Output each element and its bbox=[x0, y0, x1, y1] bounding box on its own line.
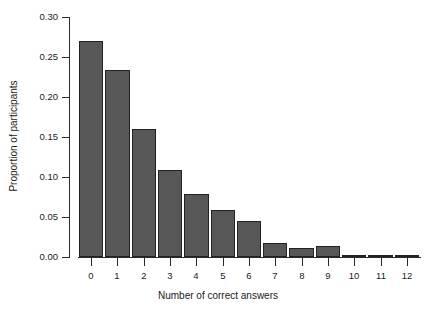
bar bbox=[211, 210, 235, 257]
x-tick bbox=[328, 258, 329, 266]
x-tick bbox=[170, 258, 171, 266]
x-tick-label: 3 bbox=[158, 270, 182, 281]
y-tick bbox=[62, 97, 70, 98]
x-tick-label: 6 bbox=[237, 270, 261, 281]
y-tick bbox=[62, 257, 70, 258]
x-tick bbox=[91, 258, 92, 266]
bar bbox=[79, 41, 103, 257]
x-tick-label: 8 bbox=[290, 270, 314, 281]
x-tick bbox=[407, 258, 408, 266]
x-tick-label: 5 bbox=[211, 270, 235, 281]
x-tick bbox=[117, 258, 118, 266]
bar bbox=[184, 194, 208, 257]
x-tick bbox=[196, 258, 197, 266]
y-tick bbox=[62, 177, 70, 178]
y-tick-label: 0.25 bbox=[24, 52, 58, 62]
x-tick-label: 2 bbox=[132, 270, 156, 281]
y-tick bbox=[62, 57, 70, 58]
x-tick-label: 0 bbox=[79, 270, 103, 281]
x-tick bbox=[223, 258, 224, 266]
y-axis-title: Proportion of participants bbox=[8, 36, 20, 236]
bar bbox=[368, 255, 392, 257]
x-axis-title: Number of correct answers bbox=[0, 290, 436, 302]
y-tick bbox=[62, 217, 70, 218]
x-tick-label: 12 bbox=[395, 270, 419, 281]
x-tick bbox=[381, 258, 382, 266]
plot-area bbox=[78, 17, 420, 257]
x-tick bbox=[302, 258, 303, 266]
x-tick bbox=[249, 258, 250, 266]
y-tick-label: 0.30 bbox=[24, 12, 58, 22]
x-tick bbox=[354, 258, 355, 266]
bar bbox=[237, 221, 261, 257]
x-tick-label: 1 bbox=[105, 270, 129, 281]
bar bbox=[132, 129, 156, 257]
bar bbox=[289, 248, 313, 257]
x-tick-label: 11 bbox=[369, 270, 393, 281]
y-tick-label: 0.10 bbox=[24, 172, 58, 182]
bar bbox=[263, 243, 287, 257]
bar bbox=[105, 70, 129, 257]
x-tick-label: 10 bbox=[342, 270, 366, 281]
x-tick bbox=[144, 258, 145, 266]
bar bbox=[395, 255, 419, 257]
y-tick-label: 0.00 bbox=[24, 252, 58, 262]
y-axis-title-holder: Proportion of participants bbox=[0, 0, 24, 280]
y-tick-label: 0.20 bbox=[24, 92, 58, 102]
bar bbox=[316, 246, 340, 257]
bar bbox=[342, 255, 366, 257]
y-tick bbox=[62, 17, 70, 18]
x-tick-label: 4 bbox=[184, 270, 208, 281]
x-tick-label: 7 bbox=[263, 270, 287, 281]
y-tick-label: 0.05 bbox=[24, 212, 58, 222]
x-tick-label: 9 bbox=[316, 270, 340, 281]
histogram-chart: 0.000.050.100.150.200.250.30 01234567891… bbox=[0, 0, 436, 321]
y-tick bbox=[62, 137, 70, 138]
bar bbox=[158, 170, 182, 257]
y-tick-label: 0.15 bbox=[24, 132, 58, 142]
x-tick bbox=[275, 258, 276, 266]
